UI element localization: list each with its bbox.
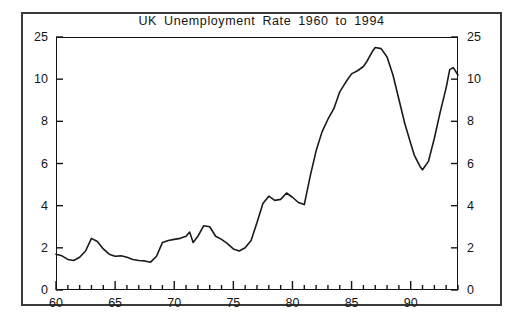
y-tick-label-left-4: 4 (18, 200, 48, 212)
y-tick-label-right-25: 25 (467, 31, 497, 43)
y-tick-label-right-10: 10 (467, 73, 497, 85)
y-tick-label-right-6: 6 (467, 158, 497, 170)
axis-ticks (56, 37, 458, 290)
x-tick-label-75: 75 (213, 297, 253, 309)
y-tick-label-right-8: 8 (467, 115, 497, 127)
y-tick-label-right-4: 4 (467, 200, 497, 212)
y-tick-label-left-25: 25 (18, 31, 48, 43)
x-tick-label-70: 70 (154, 297, 194, 309)
x-tick-label-65: 65 (95, 297, 135, 309)
x-tick-label-60: 60 (36, 297, 76, 309)
y-tick-label-right-0: 0 (467, 284, 497, 296)
chart-title: UK Unemployment Rate 1960 to 1994 (23, 14, 500, 28)
y-tick-label-left-2: 2 (18, 242, 48, 254)
y-tick-label-left-6: 6 (18, 158, 48, 170)
chart-figure: UK Unemployment Rate 1960 to 1994 251086… (0, 0, 524, 326)
y-tick-label-left-0: 0 (18, 284, 48, 296)
x-tick-label-85: 85 (332, 297, 372, 309)
x-tick-label-80: 80 (272, 297, 312, 309)
unemployment-rate-line (56, 48, 458, 263)
y-tick-label-right-2: 2 (467, 242, 497, 254)
y-tick-label-left-10: 10 (18, 73, 48, 85)
plot-svg (56, 37, 458, 290)
y-tick-label-left-8: 8 (18, 115, 48, 127)
x-tick-label-90: 90 (391, 297, 431, 309)
